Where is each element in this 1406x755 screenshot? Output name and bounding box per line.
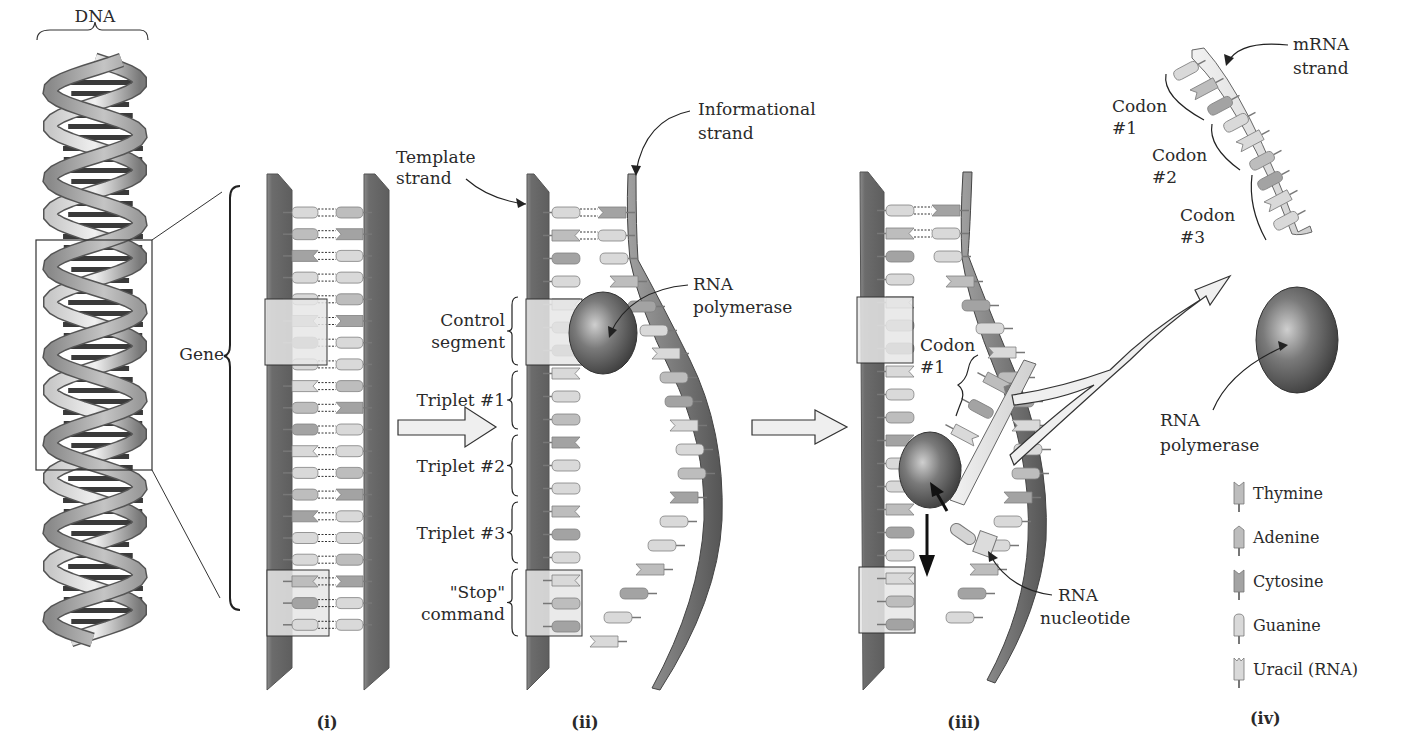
rna-polymerase-label: RNA (693, 274, 734, 294)
segment-label-stop: command (421, 604, 505, 624)
informational-strand (627, 174, 722, 690)
control-segment-box (265, 299, 327, 365)
panel-label-iii: (iii) (947, 713, 980, 732)
brace-stop (507, 569, 518, 636)
codon-2-label: #2 (1152, 167, 1177, 187)
codon-3-label: Codon (1180, 205, 1235, 225)
segment-label-stop: "Stop" (450, 582, 505, 602)
svg-text:strand: strand (1293, 58, 1349, 78)
rna-polymerase-iii (899, 432, 961, 508)
base-legend: ThymineAdenineCytosineGuanineUracil (RNA… (1234, 482, 1358, 688)
adenine-icon (1234, 526, 1244, 556)
legend-label: Guanine (1253, 616, 1321, 635)
guanine-icon (1234, 614, 1244, 644)
panel-label-i: (i) (316, 713, 337, 732)
legend-label: Uracil (RNA) (1253, 660, 1358, 679)
brace-control (507, 297, 518, 365)
thymine-icon (1234, 482, 1244, 512)
svg-text:#1: #1 (920, 357, 945, 377)
gene-brace: Gene (179, 186, 240, 610)
svg-text:strand: strand (698, 123, 754, 143)
rna-nucleotide (948, 521, 997, 557)
brace-triplet-3 (507, 502, 518, 563)
transcription-diagram: DNA Gene (i) (ii) Template s (0, 0, 1406, 755)
step-arrow-2 (752, 410, 847, 444)
segment-label-triplet-2: Triplet #2 (416, 456, 505, 476)
legend-label: Cytosine (1253, 572, 1323, 591)
uracil-icon (1234, 658, 1244, 688)
legend-label: Adenine (1252, 528, 1319, 547)
svg-text:nucleotide: nucleotide (1040, 608, 1130, 628)
legend-label: Thymine (1253, 484, 1323, 503)
dna-helix: DNA (36, 6, 222, 640)
segment-label-control: segment (431, 332, 505, 352)
brace-triplet-1 (507, 371, 518, 429)
svg-text:strand: strand (396, 168, 452, 188)
panel-i-gene-ladder: (i) (265, 174, 389, 732)
panel-ii-unwinding: (ii) (526, 174, 722, 732)
brace-triplet-2 (507, 435, 518, 496)
gene-label: Gene (179, 344, 224, 364)
rna-nucleotide-label: RNA (1058, 585, 1099, 605)
template-strand-label: Template (396, 147, 476, 167)
codon-3-label: #3 (1180, 227, 1205, 247)
panel-label-iv: (iv) (1250, 709, 1281, 728)
step-arrow-1 (398, 407, 496, 447)
rna-polymerase (569, 292, 637, 374)
segment-label-triplet-1: Triplet #1 (416, 390, 505, 410)
segment-label-triplet-3: Triplet #3 (416, 523, 505, 543)
segment-label-control: Control (440, 310, 505, 330)
svg-text:polymerase: polymerase (1160, 435, 1259, 455)
cytosine-icon (1234, 570, 1244, 600)
panel-label-ii: (ii) (571, 713, 598, 732)
panel-iv-mrna: mRNA strand Codon#1Codon#2Codon#3 RNA po… (1112, 34, 1350, 455)
rna-polymerase-iv-label: RNA (1160, 410, 1201, 430)
svg-text:polymerase: polymerase (693, 297, 792, 317)
codon-2-label: Codon (1152, 145, 1207, 165)
codon-1-label: #1 (1112, 118, 1137, 138)
codon-1-label-iii: Codon (920, 335, 975, 355)
informational-strand-label: Informational (698, 99, 816, 119)
rna-polymerase-iv (1256, 287, 1338, 393)
codon-1-label: Codon (1112, 96, 1167, 116)
mrna-strand-label: mRNA (1293, 34, 1350, 54)
